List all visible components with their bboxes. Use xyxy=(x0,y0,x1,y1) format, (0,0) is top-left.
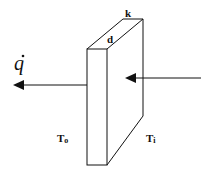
slab xyxy=(87,19,143,165)
outer-temperature-label: To xyxy=(57,132,68,145)
incoming-arrowhead-icon xyxy=(125,73,136,83)
inner-temperature-label: Ti xyxy=(146,132,156,145)
slab-front-face xyxy=(87,49,107,165)
diagram-canvas: q k d To Ti xyxy=(0,0,212,178)
slab-top-face xyxy=(87,19,143,49)
slab-diagram: q k d To Ti xyxy=(0,0,212,178)
outgoing-arrowhead-icon xyxy=(13,80,24,90)
conductivity-label: k xyxy=(125,7,132,19)
thickness-label: d xyxy=(107,33,113,45)
heat-flux-label: q xyxy=(14,52,24,75)
